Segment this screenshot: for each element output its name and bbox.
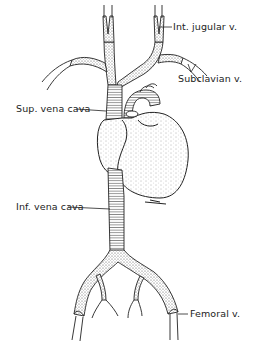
vein-diagram: Int. jugular v. Subclavian v. Sup. vena … <box>0 0 268 351</box>
label-inf-vena-cava: Inf. vena cava <box>16 202 84 212</box>
iliac-veins <box>74 250 178 316</box>
label-int-jugular: Int. jugular v. <box>173 22 237 32</box>
left-neck-veins <box>70 16 116 85</box>
superior-vena-cava <box>106 85 122 120</box>
label-sup-vena-cava: Sup. vena cava <box>16 104 90 114</box>
inferior-vena-cava <box>108 168 124 252</box>
vein-illustration <box>0 0 268 351</box>
label-femoral: Femoral v. <box>190 309 240 319</box>
label-subclavian: Subclavian v. <box>178 74 242 84</box>
